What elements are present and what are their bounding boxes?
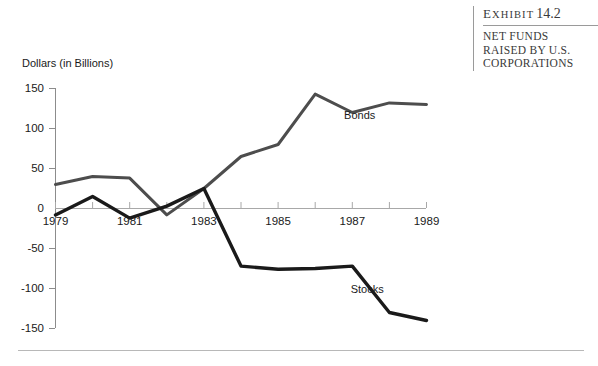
exhibit-number: 14.2	[536, 6, 561, 21]
footer-divider	[18, 350, 584, 351]
y-tick-label: 150	[25, 82, 44, 94]
exhibit-title-line: RAISED BY U.S.	[483, 44, 598, 58]
y-axis-title: Dollars (in Billions)	[22, 57, 113, 69]
exhibit-title: NET FUNDS RAISED BY U.S. CORPORATIONS	[483, 30, 598, 71]
exhibit-title-line: CORPORATIONS	[483, 57, 598, 71]
exhibit-caption-block: EXHIBIT14.2 NET FUNDS RAISED BY U.S. COR…	[473, 6, 598, 71]
y-tick-label: 0	[38, 202, 44, 214]
y-axis-ticks	[49, 89, 55, 329]
y-tick-label: -100	[21, 282, 44, 294]
exhibit-word: EXHIBIT	[483, 9, 534, 20]
series-annotation-stocks: Stocks	[351, 283, 385, 295]
x-tick-label: 1985	[265, 215, 291, 227]
caption-divider	[483, 25, 598, 26]
exhibit-figure: Dollars (in Billions) 150 100 50 0 -50 -…	[0, 0, 598, 366]
y-tick-label: 50	[31, 162, 44, 174]
exhibit-heading: EXHIBIT14.2	[483, 6, 598, 25]
net-funds-line-chart: Dollars (in Billions) 150 100 50 0 -50 -…	[0, 0, 473, 350]
y-tick-label: -50	[27, 242, 44, 254]
x-axis-tick-labels: 1979 1981 1983 1985 1987 1989	[43, 215, 440, 227]
x-tick-label: 1979	[43, 215, 69, 227]
x-tick-label: 1983	[191, 215, 217, 227]
y-tick-label: -150	[21, 322, 44, 334]
x-tick-label: 1987	[340, 215, 366, 227]
series-annotation-bonds: Bonds	[344, 109, 376, 121]
exhibit-title-line: NET FUNDS	[483, 30, 598, 44]
y-tick-label: 100	[25, 122, 44, 134]
chart-container: Dollars (in Billions) 150 100 50 0 -50 -…	[0, 0, 473, 350]
x-tick-label: 1989	[414, 215, 440, 227]
y-axis-tick-labels: 150 100 50 0 -50 -100 -150	[21, 82, 44, 334]
